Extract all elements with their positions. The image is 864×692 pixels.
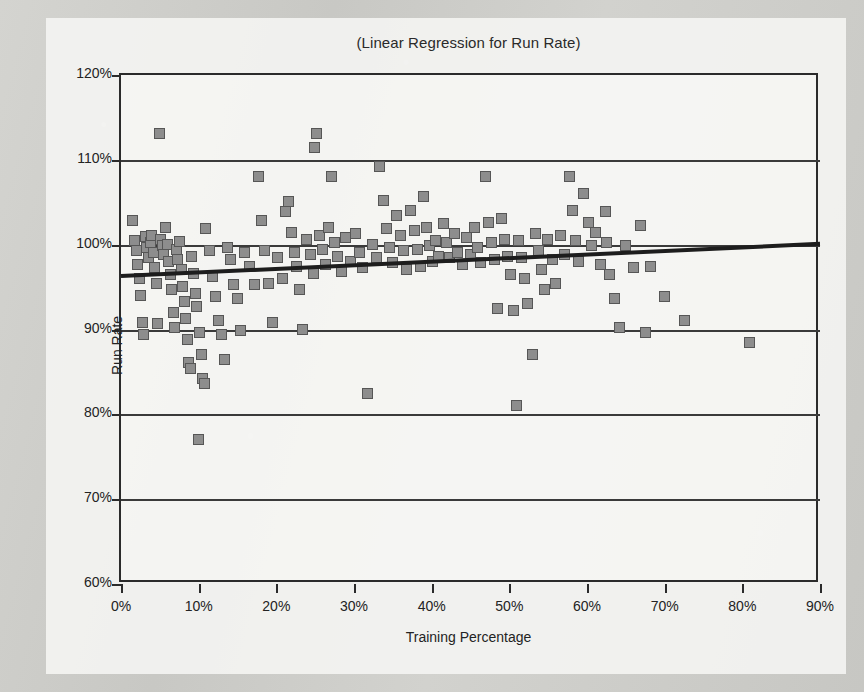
y-tick-label: 90%: [48, 320, 112, 336]
chart-title: (Linear Regression for Run Rate): [119, 34, 818, 51]
y-tick: [112, 584, 121, 586]
x-tick-label: 40%: [402, 598, 462, 614]
x-axis-title: Training Percentage: [119, 629, 818, 645]
x-tick-label: 20%: [246, 598, 306, 614]
chart-figure: (Linear Regression for Run Rate) 60%70%8…: [0, 0, 864, 692]
x-tick-label: 80%: [712, 598, 772, 614]
plot-area: 60%70%80%90%100%110%120% 0%10%20%30%40%5…: [119, 73, 818, 582]
x-tick-label: 30%: [324, 598, 384, 614]
x-tick-label: 90%: [790, 598, 850, 614]
x-tick: [121, 584, 123, 593]
y-tick: [112, 499, 121, 501]
y-tick-label: 60%: [48, 574, 112, 590]
x-tick: [742, 584, 744, 593]
x-tick-label: 10%: [169, 598, 229, 614]
x-tick: [509, 584, 511, 593]
x-tick: [820, 584, 822, 593]
x-tick-label: 60%: [557, 598, 617, 614]
x-tick: [199, 584, 201, 593]
regression-trendline: [121, 75, 820, 584]
x-tick: [432, 584, 434, 593]
y-tick: [112, 414, 121, 416]
y-tick: [112, 245, 121, 247]
x-tick: [587, 584, 589, 593]
y-tick-label: 80%: [48, 404, 112, 420]
y-tick: [112, 160, 121, 162]
y-tick-label: 100%: [48, 235, 112, 251]
y-tick-label: 120%: [48, 65, 112, 81]
y-tick-label: 70%: [48, 489, 112, 505]
x-tick-label: 0%: [91, 598, 151, 614]
y-axis-title: Run Rate: [109, 316, 125, 375]
x-tick: [354, 584, 356, 593]
y-tick-label: 110%: [48, 150, 112, 166]
x-tick: [665, 584, 667, 593]
y-tick: [112, 75, 121, 77]
x-tick-label: 50%: [479, 598, 539, 614]
x-tick: [276, 584, 278, 593]
x-tick-label: 70%: [635, 598, 695, 614]
